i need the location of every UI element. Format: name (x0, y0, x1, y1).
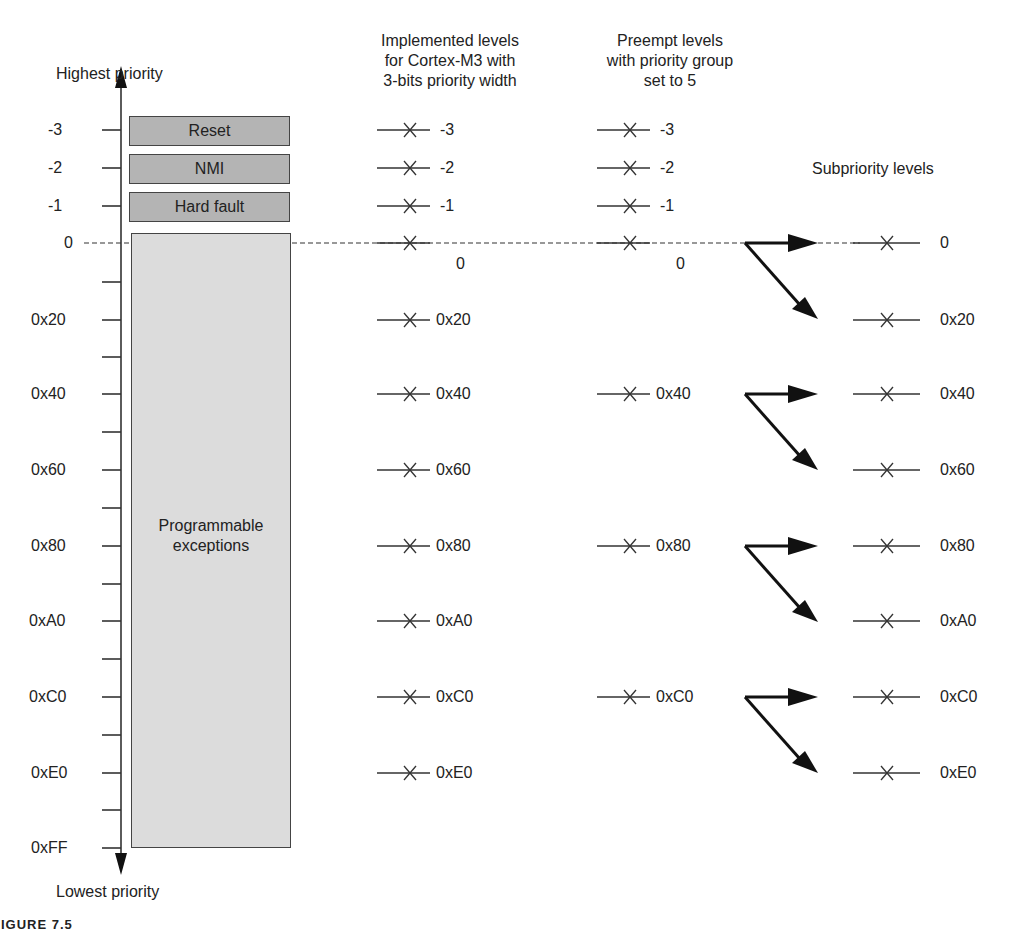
axis-tick-label: 0xE0 (31, 765, 67, 781)
header-line: Preempt levels (570, 31, 770, 51)
axis-tick-label: 0xC0 (29, 689, 66, 705)
implemented-level-label: 0 (456, 256, 465, 272)
implemented-level-markers (377, 123, 430, 780)
axis-tick-label: -2 (48, 160, 62, 176)
header-line: set to 5 (570, 71, 770, 91)
programmable-exceptions-label: Programmable exceptions (156, 516, 266, 556)
subpriority-level-label: 0x60 (940, 462, 975, 478)
implemented-level-label: 0xC0 (436, 689, 473, 705)
header-line: 3-bits priority width (350, 71, 550, 91)
subpriority-level-label: 0xE0 (940, 765, 976, 781)
axis-tick-label: 0x80 (31, 538, 66, 554)
implemented-level-label: -2 (440, 160, 454, 176)
axis-tick-label: -1 (48, 198, 62, 214)
header-line: Implemented levels (350, 31, 550, 51)
axis-tick-label: 0x40 (31, 386, 66, 402)
preempt-level-label: 0xC0 (656, 689, 693, 705)
highest-priority-label: Highest priority (56, 66, 163, 82)
programmable-exceptions-block: Programmable exceptions (131, 233, 291, 848)
header-line: for Cortex-M3 with (350, 51, 550, 71)
subpriority-level-label: 0xA0 (940, 613, 976, 629)
subpriority-level-label: 0 (940, 235, 949, 251)
subpriority-level-label: 0x20 (940, 312, 975, 328)
figure-caption: FIGURE 7.5 (0, 917, 73, 932)
axis-tick-label: -3 (48, 122, 62, 138)
split-arrow-icon (745, 537, 818, 622)
lowest-priority-label: Lowest priority (56, 884, 159, 900)
subpriority-level-markers (853, 236, 920, 780)
hard-fault-block: Hard fault (129, 192, 290, 222)
axis-arrow-down-icon (115, 853, 127, 875)
reset-label: Reset (189, 122, 231, 140)
split-arrow-icon (745, 688, 818, 773)
implemented-level-label: 0x20 (436, 312, 471, 328)
implemented-level-label: -3 (440, 122, 454, 138)
axis-major-ticks (102, 130, 121, 848)
preempt-levels-header: Preempt levels with priority group set t… (570, 31, 770, 91)
preempt-level-markers (597, 123, 650, 704)
nmi-block: NMI (129, 154, 290, 184)
preempt-level-label: -3 (660, 122, 674, 138)
preempt-level-label: -1 (660, 198, 674, 214)
split-arrow-icon (745, 234, 818, 319)
axis-tick-label: 0 (64, 235, 73, 251)
implemented-level-label: -1 (440, 198, 454, 214)
implemented-level-label: 0x80 (436, 538, 471, 554)
subpriority-level-label: 0x40 (940, 386, 975, 402)
implemented-level-label: 0xE0 (436, 765, 472, 781)
subpriority-level-label: 0x80 (940, 538, 975, 554)
preempt-level-label: 0x40 (656, 386, 691, 402)
implemented-level-label: 0x60 (436, 462, 471, 478)
implemented-levels-header: Implemented levels for Cortex-M3 with 3-… (350, 31, 550, 91)
preempt-level-label: 0 (676, 256, 685, 272)
subpriority-levels-header: Subpriority levels (812, 161, 934, 177)
header-line: with priority group (570, 51, 770, 71)
implemented-level-label: 0xA0 (436, 613, 472, 629)
subpriority-level-label: 0xC0 (940, 689, 977, 705)
reset-block: Reset (129, 116, 290, 146)
split-arrow-icon (745, 385, 818, 470)
hard-fault-label: Hard fault (175, 198, 244, 216)
nmi-label: NMI (195, 160, 224, 178)
axis-tick-label: 0x60 (31, 462, 66, 478)
axis-tick-label: 0xA0 (29, 613, 65, 629)
implemented-level-label: 0x40 (436, 386, 471, 402)
axis-tick-label: 0xFF (31, 840, 67, 856)
preempt-level-label: -2 (660, 160, 674, 176)
preempt-level-label: 0x80 (656, 538, 691, 554)
axis-tick-label: 0x20 (31, 312, 66, 328)
